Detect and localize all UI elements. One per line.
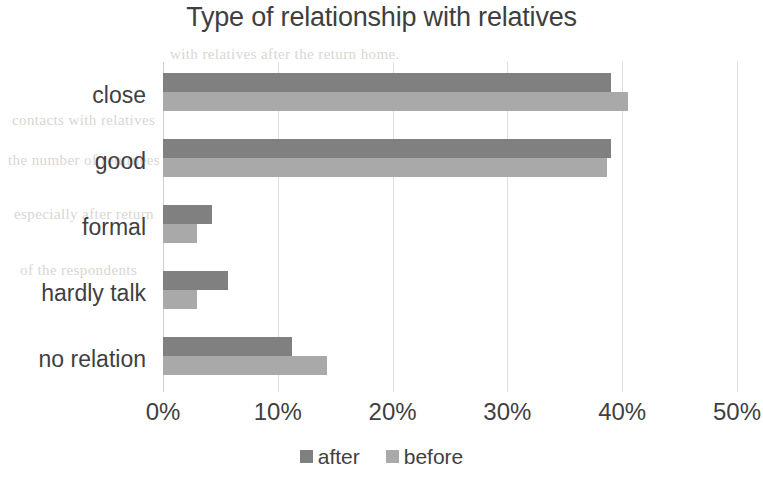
- legend-item-after[interactable]: after: [300, 446, 360, 467]
- bar-before[interactable]: [163, 356, 327, 375]
- legend-item-before[interactable]: before: [386, 446, 464, 467]
- bar-chart: Type of relationship with relatives clos…: [0, 0, 763, 478]
- legend-label-before: before: [404, 446, 464, 467]
- chart-legend: after before: [0, 446, 763, 467]
- bar-row: [163, 326, 737, 392]
- y-axis-category-labels: close good formal hardly talk no relatio…: [0, 62, 155, 392]
- bar-after[interactable]: [163, 139, 611, 158]
- y-axis-label-hardly-talk: hardly talk: [0, 260, 155, 326]
- bar-before[interactable]: [163, 290, 197, 309]
- x-tick-label: 20%: [369, 398, 417, 426]
- x-axis-tick-labels: 0%10%20%30%40%50%: [0, 398, 763, 432]
- x-tick-label: 10%: [254, 398, 302, 426]
- y-axis-label-formal: formal: [0, 194, 155, 260]
- x-tick-label: 30%: [483, 398, 531, 426]
- bar-row: [163, 260, 737, 326]
- x-tick-label: 50%: [713, 398, 761, 426]
- y-axis-label-good: good: [0, 128, 155, 194]
- bar-row: [163, 62, 737, 128]
- legend-swatch-icon: [300, 450, 313, 463]
- legend-label-after: after: [318, 446, 360, 467]
- bar-before[interactable]: [163, 224, 197, 243]
- bar-after[interactable]: [163, 337, 292, 356]
- bar-row: [163, 194, 737, 260]
- y-axis-label-close: close: [0, 62, 155, 128]
- x-tick-label: 40%: [598, 398, 646, 426]
- bar-row: [163, 128, 737, 194]
- x-tick-label: 0%: [146, 398, 181, 426]
- bar-after[interactable]: [163, 73, 611, 92]
- bar-after[interactable]: [163, 271, 228, 290]
- legend-swatch-icon: [386, 450, 399, 463]
- bar-before[interactable]: [163, 92, 628, 111]
- bar-before[interactable]: [163, 158, 607, 177]
- bar-rows: [163, 62, 737, 392]
- chart-title: Type of relationship with relatives: [0, 2, 763, 33]
- plot-area: [163, 62, 737, 392]
- gridline-50%: [737, 62, 738, 392]
- bar-after[interactable]: [163, 205, 212, 224]
- y-axis-label-no-relation: no relation: [0, 326, 155, 392]
